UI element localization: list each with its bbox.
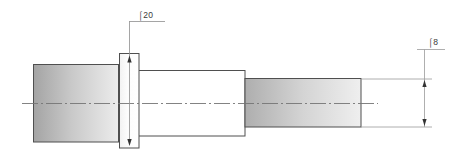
part-right-shaft (245, 79, 361, 128)
dia-8-label: ⌠8 (428, 37, 438, 48)
dia-8-arrow-bottom-icon (422, 119, 426, 126)
dia-8-arrow-top-icon (422, 80, 426, 87)
right-shaft-outline (245, 79, 361, 128)
drawing-svg: ⌠20 ⌠8 (0, 0, 467, 155)
dimension-dia-8: ⌠8 (361, 37, 445, 127)
technical-drawing-canvas: ⌠20 ⌠8 (0, 0, 467, 155)
dia-20-label: ⌠20 (138, 10, 153, 21)
